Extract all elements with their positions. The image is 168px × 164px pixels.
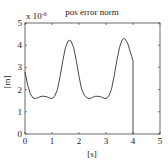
y-tick-label: 2 <box>18 85 23 95</box>
y-multiplier: x 10-6 <box>26 11 47 21</box>
x-tick-label: 0 <box>23 136 28 146</box>
x-tick-label: 3 <box>104 136 109 146</box>
chart-figure: 012345012345 pos error norm [s] [m] x 10… <box>0 0 168 164</box>
x-axis-label: [s] <box>87 149 97 159</box>
x-tick-label: 5 <box>158 136 163 146</box>
y-tick-label: 4 <box>18 40 23 50</box>
x-tick-label: 1 <box>50 136 55 146</box>
y-axis-label: [m] <box>2 76 12 89</box>
chart-title: pos error norm <box>65 7 119 17</box>
y-tick-label: 0 <box>18 129 23 139</box>
x-tick-label: 4 <box>131 136 136 146</box>
y-tick-label: 1 <box>18 107 23 117</box>
plot-area <box>25 23 160 134</box>
y-tick-label: 3 <box>18 62 23 72</box>
x-tick-label: 2 <box>77 136 82 146</box>
y-tick-label: 5 <box>18 18 23 28</box>
